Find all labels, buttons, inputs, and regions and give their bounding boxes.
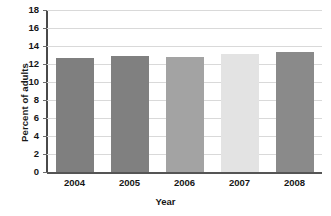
y-axis-tick-label: 18 <box>8 5 39 14</box>
y-axis-tick-label: 10 <box>8 77 39 86</box>
axis-baseline <box>47 172 322 174</box>
y-axis-tick-label: 16 <box>8 23 39 32</box>
y-axis-tick-label: 14 <box>8 41 39 50</box>
gridline <box>47 10 322 11</box>
bar <box>221 54 259 172</box>
bar-chart: Percent of adults 181614121086420 200420… <box>0 0 331 216</box>
bar <box>56 58 94 172</box>
y-axis-tick-label: 12 <box>8 59 39 68</box>
y-axis-tick-label: 0 <box>8 167 39 176</box>
bar <box>111 56 149 172</box>
bar <box>276 52 314 172</box>
y-axis-tick-label: 8 <box>8 95 39 104</box>
page-bleed-bottom-text <box>0 209 331 216</box>
x-axis-tick-label: 2004 <box>50 178 100 188</box>
x-axis-title: Year <box>0 196 331 207</box>
x-axis-tick-label: 2006 <box>160 178 210 188</box>
bar <box>166 57 204 172</box>
gridline <box>47 46 322 47</box>
plot-area <box>47 10 322 172</box>
x-axis-tick-label: 2007 <box>215 178 265 188</box>
y-axis-tick-label: 2 <box>8 149 39 158</box>
x-axis-tick-label: 2008 <box>270 178 320 188</box>
y-axis-tick-label: 6 <box>8 113 39 122</box>
page-bleed-top-text <box>0 0 331 5</box>
gridline <box>47 28 322 29</box>
x-axis-tick-label: 2005 <box>105 178 155 188</box>
y-axis-tick-label: 4 <box>8 131 39 140</box>
